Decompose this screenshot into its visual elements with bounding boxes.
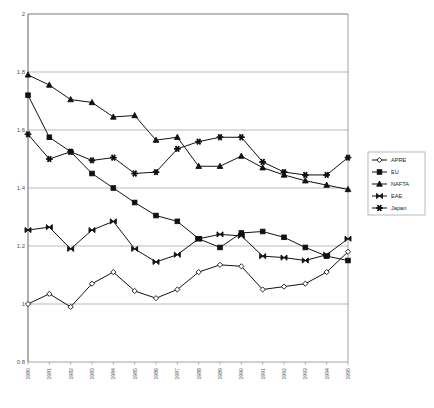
data-point-nafta-1982	[68, 97, 74, 102]
x-tick-label: 1988	[196, 368, 202, 380]
x-tick-label: 1987	[174, 368, 180, 380]
chart-legend: APREEUNAFTAEAEJapan	[368, 152, 425, 215]
x-tick-label: 1985	[132, 368, 138, 380]
data-point-eae-1993	[302, 258, 308, 263]
y-tick-label: 0.8	[17, 359, 26, 365]
data-point-japan-1989	[217, 134, 223, 140]
data-point-apre-1986	[153, 296, 158, 301]
x-tick-label: 1982	[68, 368, 74, 380]
legend-label-japan: Japan	[391, 205, 406, 211]
x-tick-label: 1983	[89, 368, 95, 380]
data-point-japan-1983	[89, 158, 95, 164]
data-point-eu-1984	[111, 186, 116, 191]
x-tick-label: 1992	[281, 368, 287, 380]
data-point-eae-1991	[260, 254, 266, 259]
data-point-nafta-1980	[25, 72, 31, 77]
legend-label-eu: EU	[391, 169, 399, 175]
chart-root: 0.811.21.41.61.8219801981198219831984198…	[0, 0, 434, 408]
series-eu	[26, 93, 351, 263]
y-tick-label: 1.6	[17, 127, 26, 133]
data-point-eu-1985	[132, 200, 137, 205]
x-tick-label: 1989	[217, 368, 223, 380]
series-eae	[25, 219, 351, 265]
data-point-eu-1992	[282, 235, 287, 240]
data-point-eae-1986	[153, 259, 159, 264]
series-nafta	[25, 72, 351, 192]
data-point-eu-1981	[47, 135, 52, 140]
data-point-nafta-1991	[260, 165, 266, 170]
legend-label-nafta: NAFTA	[391, 181, 409, 187]
data-point-eu-1989	[218, 245, 223, 250]
data-point-eae-1985	[132, 246, 138, 251]
series-line-japan	[28, 134, 348, 175]
data-point-apre-1989	[217, 262, 222, 267]
data-point-nafta-1987	[175, 134, 181, 139]
data-point-eu-1980	[26, 93, 31, 98]
data-point-eae-1987	[174, 252, 180, 257]
legend-label-apre: APRE	[391, 157, 407, 163]
x-tick-label: 1991	[260, 368, 266, 380]
data-point-nafta-1990	[239, 153, 245, 158]
x-tick-label: 1986	[153, 368, 159, 380]
legend-marker-eu	[377, 170, 382, 175]
data-point-apre-1981	[47, 291, 52, 296]
data-point-apre-1980	[25, 301, 30, 306]
series-apre	[25, 249, 350, 309]
data-point-nafta-1985	[132, 113, 138, 118]
x-tick-label: 1994	[324, 368, 330, 380]
x-tick-label: 1990	[238, 368, 244, 380]
data-point-eae-1983	[89, 227, 95, 232]
data-point-eae-1984	[110, 219, 116, 224]
x-tick-label: 1993	[302, 368, 308, 380]
series-line-nafta	[28, 75, 348, 190]
data-point-eae-1982	[68, 246, 74, 251]
data-point-eu-1991	[260, 229, 265, 234]
x-tick-label: 1984	[110, 368, 116, 380]
line-chart: 0.811.21.41.61.8219801981198219831984198…	[0, 0, 434, 408]
data-point-apre-1993	[303, 281, 308, 286]
legend-label-eae: EAE	[391, 193, 402, 199]
x-tick-label: 1980	[25, 368, 31, 380]
y-tick-label: 1.8	[17, 69, 26, 75]
data-point-eae-1981	[46, 225, 52, 230]
x-tick-label: 1995	[345, 368, 351, 380]
data-point-eae-1992	[281, 255, 287, 260]
data-point-apre-1992	[281, 284, 286, 289]
series-line-eu	[28, 95, 348, 260]
series-line-eae	[28, 221, 348, 262]
y-tick-label: 2	[22, 11, 26, 17]
y-tick-label: 1.2	[17, 243, 26, 249]
data-point-eae-1989	[217, 232, 223, 237]
y-tick-label: 1.4	[17, 185, 26, 191]
data-point-eu-1987	[175, 219, 180, 224]
data-point-eu-1986	[154, 213, 159, 218]
data-point-eu-1995	[346, 258, 351, 263]
x-tick-label: 1981	[46, 368, 52, 380]
data-point-japan-1988	[195, 139, 201, 145]
data-point-eu-1983	[90, 171, 95, 176]
data-point-eu-1993	[303, 245, 308, 250]
